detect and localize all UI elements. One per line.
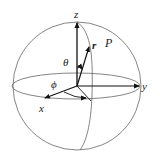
phi-arc	[64, 92, 86, 98]
x-label: x	[38, 102, 44, 114]
z-label: z	[73, 8, 79, 20]
r-vector	[77, 47, 89, 86]
theta-arc	[77, 67, 82, 69]
theta-label: θ	[63, 56, 69, 68]
phi-label: ϕ	[51, 78, 57, 90]
y-label: y	[141, 80, 147, 92]
diagram-canvas: z y x r P θ ϕ	[0, 0, 159, 158]
r-label: r	[92, 39, 97, 51]
p-label: P	[104, 36, 113, 50]
x-axis	[45, 86, 77, 98]
spherical-coordinates-diagram: z y x r P θ ϕ	[0, 0, 159, 158]
